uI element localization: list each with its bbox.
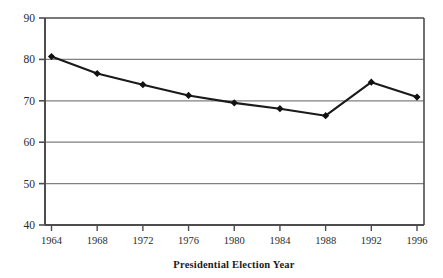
x-tick-label: 1980: [224, 235, 245, 246]
x-tick-label: 1972: [132, 235, 153, 246]
x-tick-label: 1968: [87, 235, 108, 246]
x-tick-label: 1996: [407, 235, 428, 246]
y-tick-label: 90: [24, 12, 36, 24]
y-tick-label: 80: [24, 53, 36, 65]
y-tick-label: 40: [24, 219, 36, 231]
chart-container: 405060708090 196419681972197619801984198…: [0, 0, 443, 278]
x-tick-label: 1976: [178, 235, 199, 246]
x-tick-label: 1988: [315, 235, 336, 246]
y-tick-label: 60: [24, 136, 36, 148]
y-tick-label: 70: [24, 95, 36, 107]
line-chart: 405060708090 196419681972197619801984198…: [0, 0, 443, 278]
x-tick-label: 1992: [361, 235, 382, 246]
x-tick-label: 1984: [269, 235, 291, 246]
y-tick-label: 50: [24, 178, 36, 190]
x-tick-label: 1964: [41, 235, 63, 246]
x-axis-title: Presidential Election Year: [173, 259, 294, 270]
